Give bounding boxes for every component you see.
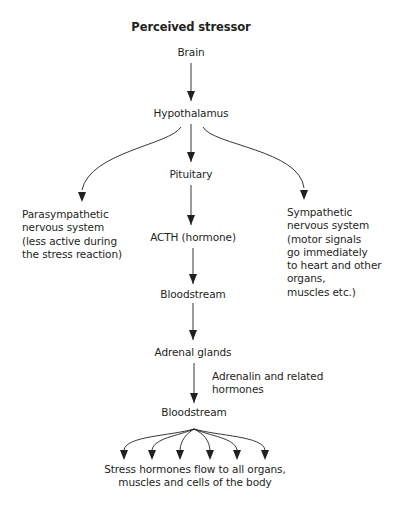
node-acth: ACTH (hormone) (150, 231, 236, 244)
edge-label-adrenalin: Adrenalin and related hormones (212, 370, 323, 397)
node-pituitary: Pituitary (170, 168, 213, 181)
node-bloodstream-2: Bloodstream (161, 406, 226, 419)
node-bloodstream-1: Bloodstream (160, 288, 225, 301)
arrow-hypothalamus-sympathetic (203, 127, 304, 188)
node-sympathetic: Sympathetic nervous system (motor signal… (287, 206, 381, 299)
diagram-title: Perceived stressor (131, 21, 250, 34)
node-hypothalamus: Hypothalamus (154, 107, 229, 120)
node-adrenal-glands: Adrenal glands (155, 346, 232, 359)
node-brain: Brain (177, 46, 204, 59)
node-parasympathetic: Parasympathetic nervous system (less act… (22, 208, 122, 261)
fan-arrows (124, 429, 265, 450)
node-outcome: Stress hormones flow to all organs, musc… (104, 463, 285, 490)
arrow-hypothalamus-parasympathetic (82, 127, 181, 190)
